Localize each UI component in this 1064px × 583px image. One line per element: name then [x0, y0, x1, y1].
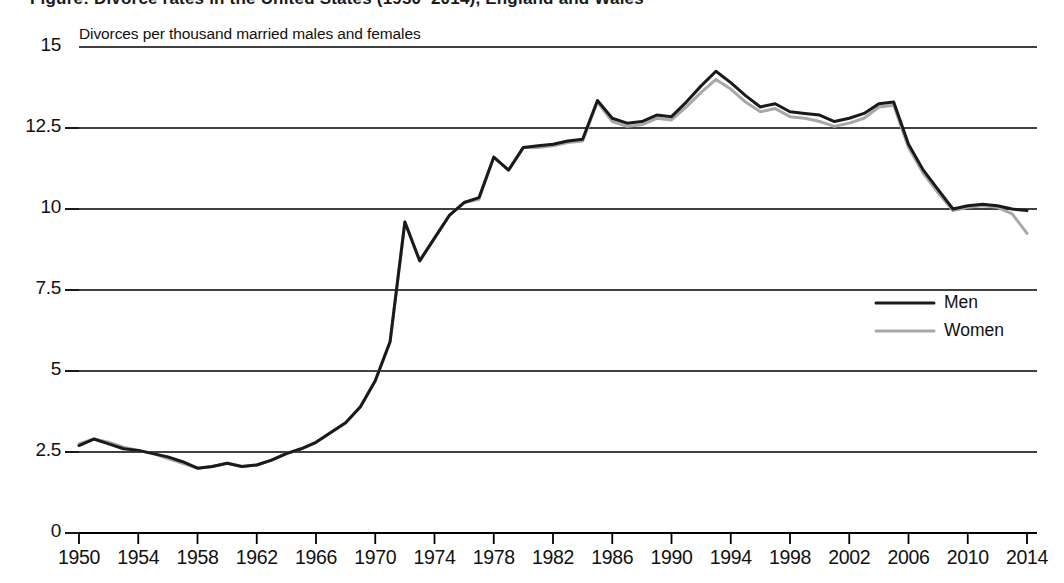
x-axis-tick-label: 1962 — [225, 546, 289, 569]
figure-title-cutoff: Figure: Divorce rates in the United Stat… — [30, 0, 644, 9]
x-axis-tick-label: 1978 — [462, 546, 526, 569]
x-axis-tick-label: 1958 — [166, 546, 230, 569]
x-axis-tick-label: 1982 — [521, 546, 585, 569]
y-axis-tick-label: 5 — [1, 358, 61, 380]
legend-label-women: Women — [944, 320, 1004, 341]
chart-axis-note: Divorces per thousand married males and … — [79, 25, 421, 43]
legend-label-men: Men — [944, 292, 978, 313]
y-axis-tick-label: 15 — [1, 34, 61, 56]
x-axis-tick-label: 1974 — [403, 546, 467, 569]
y-axis-tick-label: 0 — [1, 520, 61, 542]
x-axis-tick-label: 2010 — [936, 546, 1000, 569]
y-axis-tick-label: 7.5 — [1, 277, 61, 299]
x-axis-tick-label: 1994 — [699, 546, 763, 569]
x-tick-marks-group — [79, 533, 1027, 544]
data-series-group — [79, 71, 1027, 468]
x-axis-tick-label: 1954 — [106, 546, 170, 569]
y-axis-tick-label: 12.5 — [1, 115, 61, 137]
x-axis-tick-label: 1970 — [343, 546, 407, 569]
series-line-women — [79, 79, 1027, 468]
series-line-men — [79, 71, 1027, 468]
x-axis-tick-label: 1998 — [758, 546, 822, 569]
x-axis-tick-label: 1990 — [640, 546, 704, 569]
legend-swatches-group — [876, 303, 934, 331]
divorce-rate-chart-figure: Figure: Divorce rates in the United Stat… — [0, 0, 1064, 583]
x-axis-tick-label: 1950 — [47, 546, 111, 569]
chart-plot-area — [0, 0, 1064, 583]
y-axis-tick-label: 2.5 — [1, 439, 61, 461]
gridlines-group — [65, 47, 1037, 533]
x-axis-tick-label: 1986 — [580, 546, 644, 569]
x-axis-tick-label: 1966 — [284, 546, 348, 569]
x-axis-tick-label: 2014 — [995, 546, 1059, 569]
x-axis-tick-label: 2006 — [877, 546, 941, 569]
x-axis-tick-label: 2002 — [817, 546, 881, 569]
y-axis-tick-label: 10 — [1, 196, 61, 218]
